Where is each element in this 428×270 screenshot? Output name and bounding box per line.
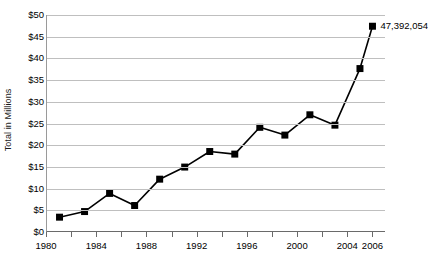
gridline xyxy=(47,37,385,38)
x-axis-tick-marks xyxy=(46,232,385,238)
x-axis-tick-mark xyxy=(172,232,173,237)
y-axis-tick-label: $15 xyxy=(16,162,44,172)
data-point-marker xyxy=(281,132,288,139)
x-axis-tick-mark xyxy=(197,232,198,237)
gridline xyxy=(47,210,385,211)
gridline xyxy=(47,145,385,146)
x-axis-tick-mark xyxy=(222,232,223,237)
data-point-marker xyxy=(81,208,88,215)
y-axis-tick-label: $25 xyxy=(16,119,44,129)
x-axis-tick-label: 1996 xyxy=(236,240,257,251)
y-axis-tick-label: $10 xyxy=(16,184,44,194)
y-axis-tick-label: $30 xyxy=(16,97,44,107)
data-point-marker xyxy=(156,176,163,183)
gridline xyxy=(47,15,385,16)
y-axis-tick-label: $45 xyxy=(16,32,44,42)
x-axis-tick-mark xyxy=(96,232,97,237)
data-point-marker xyxy=(356,65,363,72)
data-point-marker xyxy=(56,214,63,221)
y-axis-tick-label: $5 xyxy=(16,206,44,216)
x-axis-tick-label: 2004 xyxy=(337,240,358,251)
x-axis-tick-labels: 19801984198819921996200020042006 xyxy=(0,240,414,258)
x-axis-tick-label: 2006 xyxy=(362,240,383,251)
gridline xyxy=(47,80,385,81)
x-axis-tick-mark xyxy=(247,232,248,237)
y-axis-tick-label: $35 xyxy=(16,75,44,85)
data-point-marker xyxy=(131,202,138,209)
data-point-marker xyxy=(306,111,313,118)
data-point-marker xyxy=(231,151,238,158)
y-axis-tick-labels: $0$5$10$15$20$25$30$35$40$45$50 xyxy=(12,0,44,270)
gridline xyxy=(47,189,385,190)
gridline xyxy=(47,58,385,59)
gridline xyxy=(47,102,385,103)
x-axis-tick-mark xyxy=(297,232,298,237)
x-axis-tick-mark xyxy=(46,232,47,237)
final-value-annotation: 47,392,054 xyxy=(380,20,428,31)
x-axis-tick-mark xyxy=(322,232,323,237)
data-point-marker xyxy=(206,148,213,155)
x-axis-tick-mark xyxy=(347,232,348,237)
y-axis-tick-label: $20 xyxy=(16,140,44,150)
x-axis-tick-mark xyxy=(71,232,72,237)
x-axis-tick-label: 1988 xyxy=(136,240,157,251)
x-axis-tick-mark xyxy=(121,232,122,237)
x-axis-tick-mark xyxy=(146,232,147,237)
x-axis-tick-label: 1992 xyxy=(186,240,207,251)
gridline xyxy=(47,124,385,125)
data-point-marker xyxy=(369,23,376,30)
x-axis-tick-label: 1980 xyxy=(35,240,56,251)
y-axis-tick-label: $40 xyxy=(16,54,44,64)
y-axis-tick-label: $0 xyxy=(16,227,44,237)
data-point-marker xyxy=(256,124,263,131)
x-axis-tick-mark xyxy=(372,232,373,237)
data-point-marker xyxy=(106,190,113,197)
x-axis-tick-mark xyxy=(272,232,273,237)
x-axis-tick-label: 2000 xyxy=(287,240,308,251)
plot-area xyxy=(46,15,385,232)
y-axis-tick-label: $50 xyxy=(16,10,44,20)
x-axis-tick-label: 1984 xyxy=(86,240,107,251)
gridline xyxy=(47,167,385,168)
